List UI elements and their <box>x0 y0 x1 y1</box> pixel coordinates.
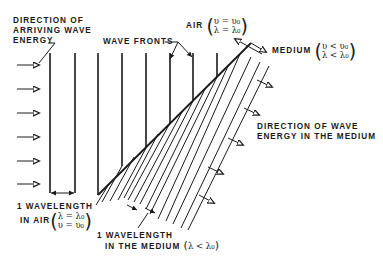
medium-label: MEDIUM (υ < υ₀λ < λ₀) <box>272 42 356 60</box>
medium-wavelength-dimension <box>127 205 155 228</box>
air-wavelength-label: 1 WAVELENGTH IN AIR(λ = λ₀υ = υ₀) <box>17 202 93 230</box>
arriving-energy-leader <box>39 43 55 63</box>
air-label-leader <box>235 39 262 54</box>
air-label: AIR (υ = υ₀λ = λ₀) <box>186 17 248 35</box>
arriving-energy-label: DIRECTION OF ARRIVING WAVE ENERGY <box>13 16 92 46</box>
air-wave-fronts <box>50 53 217 195</box>
wave-fronts-label: WAVE FRONTS <box>103 37 173 47</box>
incoming-energy-arrows <box>17 65 39 184</box>
medium-wavelength-label: 1 WAVELENGTH IN THE MEDIUM (λ < λ₀) <box>97 231 219 252</box>
medium-label-leader <box>251 43 266 52</box>
medium-direction-label: DIRECTION OF WAVE ENERGY IN THE MEDIUM <box>257 122 376 142</box>
